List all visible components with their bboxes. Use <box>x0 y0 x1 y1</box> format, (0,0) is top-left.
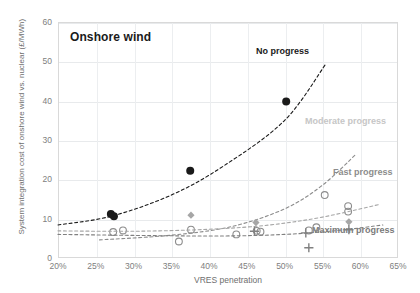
chart-container: System integration cost of onshore wind … <box>0 0 420 293</box>
x-axis-tick-label: 20% <box>43 262 73 271</box>
y-axis-tick-label: 50 <box>26 57 52 66</box>
y-axis-tick-label: 10 <box>26 215 52 224</box>
x-axis-tick-label: 45% <box>232 262 262 271</box>
y-axis-tick-label: 60 <box>26 18 52 27</box>
chart-title: Onshore wind <box>70 30 151 44</box>
x-axis-tick-label: 60% <box>345 262 375 271</box>
x-axis-tick-label: 50% <box>270 262 300 271</box>
curve-annotation-moderate-progress: Moderate progress <box>305 116 386 126</box>
x-axis-tick-label: 35% <box>156 262 186 271</box>
y-axis-tick-label: 30 <box>26 136 52 145</box>
y-axis-tick-label: 40 <box>26 97 52 106</box>
curve-annotation-no-progress: No progress <box>256 46 309 56</box>
x-axis-tick-label: 30% <box>119 262 149 271</box>
x-axis-tick-label: 55% <box>307 262 337 271</box>
axis-labels-layer: 010203040506020%25%30%35%40%45%50%55%60%… <box>0 0 420 293</box>
x-axis-title: VRES penetration <box>58 275 398 285</box>
curve-annotation-fast-progress: Fast progress <box>333 167 393 177</box>
x-axis-tick-label: 65% <box>383 262 413 271</box>
x-axis-tick-label: 25% <box>81 262 111 271</box>
y-axis-tick-label: 20 <box>26 175 52 184</box>
curve-annotation-maximum-progress: Maximum progress <box>312 225 395 235</box>
x-axis-tick-label: 40% <box>194 262 224 271</box>
